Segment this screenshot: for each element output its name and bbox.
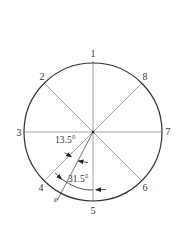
position-label-8: 8 [143, 71, 148, 82]
line-label-e: e [54, 194, 58, 204]
position-label-3: 3 [17, 127, 22, 138]
angle-13-5-marker [65, 153, 88, 163]
center-point [92, 131, 95, 134]
position-label-6: 6 [143, 182, 148, 193]
angle-label-13-5: 13.5° [55, 135, 76, 145]
position-label-1: 1 [91, 48, 96, 59]
position-label-7: 7 [166, 126, 171, 137]
position-label-4: 4 [39, 182, 44, 193]
position-label-5: 5 [91, 205, 96, 216]
angle-label-31-5: 31.5° [68, 174, 89, 184]
circle-position-diagram: 1 2 3 4 5 6 7 8 e 13.5° 31.5° [0, 0, 180, 229]
position-label-2: 2 [40, 71, 45, 82]
